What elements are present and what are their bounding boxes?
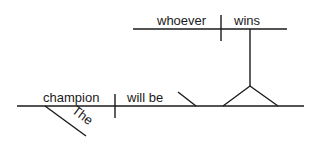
pedestal-triangle <box>223 86 278 106</box>
subject-word: champion <box>43 90 99 105</box>
sentence-diagram: champion will be The whoever wins <box>0 0 318 145</box>
clause-verb-word: wins <box>233 13 261 28</box>
clause-subject-word: whoever <box>156 13 207 28</box>
verb-word: will be <box>126 90 163 105</box>
complement-slash <box>178 92 196 106</box>
